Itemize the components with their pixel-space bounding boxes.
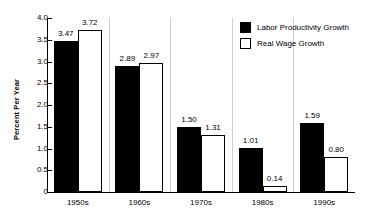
y-axis-tick [48, 127, 52, 128]
y-axis-tick [48, 40, 52, 41]
y-axis-tick-label: 3.0 [18, 58, 48, 66]
y-axis-tick-label: 0.5 [18, 166, 48, 174]
legend-swatch-icon-dark [240, 22, 251, 33]
x-axis-label-1960s: 1960s [109, 198, 171, 207]
bar-1970s-series-2 [201, 135, 225, 192]
y-axis-tick [48, 83, 52, 84]
y-axis-tick [48, 62, 52, 63]
y-axis-tick-label: 3.5 [18, 36, 48, 44]
bar-value-label: 1.01 [233, 137, 269, 145]
bar-1980s-series-2 [263, 186, 287, 192]
bar-chart: Percent Per Year 4.03.53.02.52.01.51.00.… [0, 0, 373, 224]
x-axis-label-1950s: 1950s [47, 198, 109, 207]
y-axis-tick-label: 1.0 [18, 145, 48, 153]
y-axis-tick-label: 2.0 [18, 101, 48, 109]
legend-item-real-wage-growth: Real Wage Growth [240, 35, 349, 51]
x-axis-line [47, 192, 355, 193]
bar-value-label: 0.14 [257, 175, 293, 183]
legend-label: Real Wage Growth [257, 39, 324, 48]
legend-swatch-icon-light [240, 38, 251, 49]
y-axis-tick-label: 1.5 [18, 123, 48, 131]
bar-value-label: 1.50 [171, 116, 207, 124]
y-axis-tick [48, 192, 52, 193]
bar-value-label: 2.97 [133, 52, 169, 60]
y-axis-tick [48, 170, 52, 171]
bar-1980s-series-1 [239, 148, 263, 192]
x-axis-label-1980s: 1980s [232, 198, 294, 207]
group-separator [109, 18, 110, 192]
y-axis-tick-label: 2.5 [18, 79, 48, 87]
bar-value-label: 0.80 [318, 146, 354, 154]
y-axis-tick [48, 105, 52, 106]
y-axis-tick [48, 149, 52, 150]
group-separator [170, 18, 171, 192]
y-axis-tick-label: 4.0 [18, 14, 48, 22]
group-separator [232, 18, 233, 192]
bar-1960s-series-1 [115, 66, 139, 192]
x-axis-label-1970s: 1970s [170, 198, 232, 207]
bar-1960s-series-2 [139, 63, 163, 192]
legend-item-labor-productivity-growth: Labor Productivity Growth [240, 19, 349, 35]
bar-value-label: 1.59 [294, 112, 330, 120]
chart-legend: Labor Productivity Growth Real Wage Grow… [240, 19, 349, 51]
bar-value-label: 3.72 [72, 19, 108, 27]
y-axis-tick-label: 0 [18, 188, 48, 196]
bar-1950s-series-2 [78, 30, 102, 192]
y-axis-tick [48, 18, 52, 19]
bar-1990s-series-2 [324, 157, 348, 192]
legend-label: Labor Productivity Growth [257, 23, 349, 32]
bar-1990s-series-1 [300, 123, 324, 192]
x-axis-label-1990s: 1990s [293, 198, 355, 207]
bar-1970s-series-1 [177, 127, 201, 192]
bar-1950s-series-1 [54, 41, 78, 192]
bar-value-label: 1.31 [195, 124, 231, 132]
